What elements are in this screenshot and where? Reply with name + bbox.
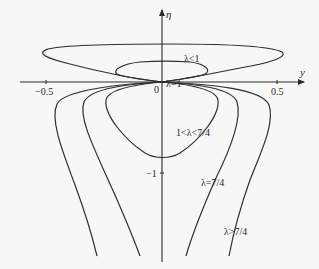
phase-diagram: y η 0 −0.5 0.5 −1 λ<1 λ=1 1<λ<7/4 λ=7/4 … [0,0,319,269]
x-tick-label-neg-half: −0.5 [35,86,53,97]
label-lambda-lt-1: λ<1 [184,53,200,64]
label-lambda-eq-7-4: λ=7/4 [201,177,224,188]
curve-lambda-lt-1-outer [43,44,283,82]
y-tick-label-neg-one: −1 [146,168,157,179]
curve-lambda-gt-7-4-right [162,82,271,256]
label-lambda-between: 1<λ<7/4 [176,127,210,138]
origin-label: 0 [154,84,159,95]
x-axis-label: y [299,66,305,78]
x-tick-label-pos-half: 0.5 [271,86,284,97]
y-axis-label: η [166,8,171,20]
label-lambda-eq-1: λ=1 [166,78,182,89]
label-lambda-gt-7-4: λ>7/4 [224,226,247,237]
